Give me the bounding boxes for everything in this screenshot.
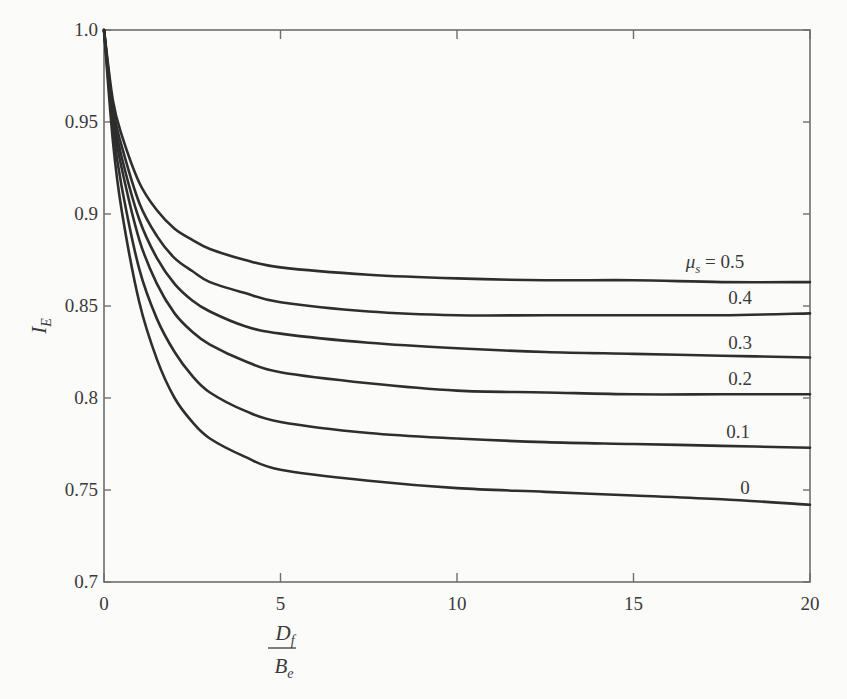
- x-tick-label: 10: [448, 593, 467, 614]
- y-tick-label: 0.8: [74, 387, 98, 408]
- x-axis-title: Df Be: [268, 621, 297, 681]
- y-tick-label: 0.85: [65, 295, 98, 316]
- curve-labels: μs = 0.50.40.30.20.10: [685, 251, 753, 498]
- y-tick-label: 0.9: [74, 203, 98, 224]
- curve-label: 0.4: [728, 287, 752, 308]
- curve-mu-0-5: [104, 30, 810, 282]
- y-axis-title: IE: [27, 318, 54, 335]
- x-axis-title-numerator: Df: [274, 621, 296, 648]
- x-axis-ticks: 05101520: [99, 30, 819, 614]
- curve-label: 0.3: [728, 332, 752, 353]
- curve-label: 0.2: [728, 368, 752, 389]
- chart-canvas: 0.70.750.80.850.90.951.0 05101520 μs = 0…: [0, 0, 847, 699]
- curve-label: 0.1: [726, 421, 750, 442]
- curve-mu-0-2: [104, 30, 810, 394]
- x-tick-label: 0: [99, 593, 109, 614]
- curve-mu-0-3: [104, 30, 810, 358]
- y-tick-label: 1.0: [74, 19, 98, 40]
- curve-mu-0-4: [104, 30, 810, 315]
- x-tick-label: 5: [276, 593, 286, 614]
- curve-label: 0: [740, 477, 750, 498]
- x-tick-label: 20: [801, 593, 820, 614]
- curve-label: μs = 0.5: [685, 251, 745, 276]
- y-tick-label: 0.75: [65, 479, 98, 500]
- y-axis-ticks: 0.70.750.80.850.90.951.0: [65, 19, 810, 592]
- x-tick-label: 15: [624, 593, 643, 614]
- y-tick-label: 0.95: [65, 111, 98, 132]
- curve-mu-0-1: [104, 30, 810, 448]
- x-axis-title-denominator: Be: [274, 654, 293, 681]
- y-tick-label: 0.7: [74, 571, 98, 592]
